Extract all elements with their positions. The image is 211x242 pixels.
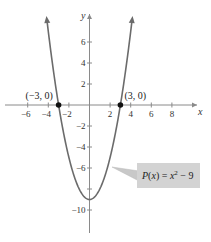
intercept-label: (3, 0) (124, 90, 146, 102)
y-tick-label: −6 (76, 163, 86, 173)
y-axis-label: y (80, 10, 86, 21)
x-tick-label: 8 (170, 109, 175, 119)
callout-pointer (112, 167, 139, 181)
intercept-point (56, 102, 62, 108)
x-tick-label: 2 (108, 109, 113, 119)
y-tick-label: −10 (71, 205, 86, 215)
equation-callout: P(x) = x2 − 9 (112, 163, 200, 188)
axes: x y (5, 10, 203, 233)
y-tick-label: 6 (81, 37, 86, 47)
y-ticks: 642−2−4−6−10 (71, 37, 92, 215)
x-tick-label: −2 (62, 109, 72, 119)
curve-arrowhead (129, 16, 135, 23)
intercept-point (118, 102, 124, 108)
x-tick-label: 6 (149, 109, 154, 119)
equation-label: P(x) = x2 − 9 (141, 169, 193, 182)
y-tick-label: 4 (81, 58, 86, 68)
intercept-label: (−3, 0) (26, 90, 53, 102)
y-tick-label: −2 (76, 121, 86, 131)
x-tick-label: −4 (42, 109, 52, 119)
curve-arrowhead (44, 16, 50, 23)
x-axis-label: x (197, 106, 203, 117)
y-tick-label: −4 (76, 142, 86, 152)
parabola-chart: x y −6−4−22468 642−2−4−6−10 (−3, 0)(3, 0… (0, 0, 211, 242)
y-tick-label: 2 (81, 79, 86, 89)
x-tick-label: −6 (21, 109, 31, 119)
x-tick-label: 4 (128, 109, 133, 119)
